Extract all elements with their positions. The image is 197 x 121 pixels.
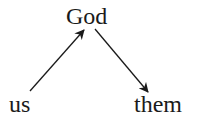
- arrow-god-to-them: [95, 29, 148, 92]
- node-god-label: God: [66, 4, 107, 28]
- arrow-us-to-god: [30, 30, 84, 91]
- node-them-label: them: [134, 92, 182, 116]
- diagram-canvas: God us them: [0, 0, 197, 121]
- node-us-label: us: [9, 92, 30, 116]
